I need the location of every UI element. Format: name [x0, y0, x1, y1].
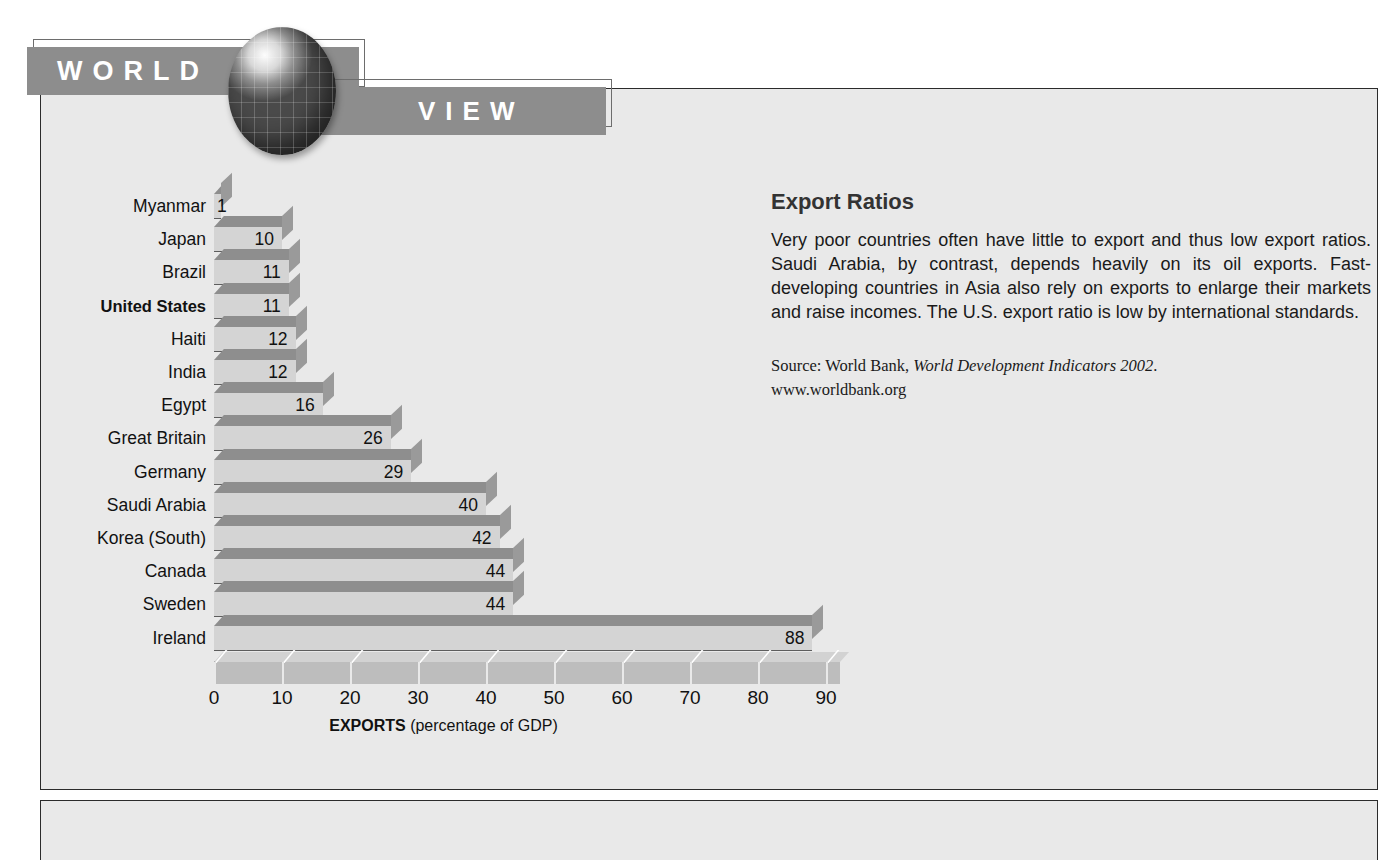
axis-tick-lower	[826, 662, 828, 684]
bar-top-face	[214, 548, 523, 559]
axis-tick-label: 90	[806, 687, 846, 709]
axis-tick-lower	[554, 662, 556, 684]
bar-row: Saudi Arabia40	[41, 493, 741, 517]
axis-tick-label: 30	[398, 687, 438, 709]
x-axis-title-rest: (percentage of GDP)	[406, 717, 558, 734]
bar-row: Great Britain26	[41, 426, 741, 450]
bar-top-face	[214, 449, 421, 460]
bar-top-face	[214, 382, 333, 393]
bar-value-label: 12	[248, 327, 288, 351]
bar-front-face	[214, 626, 812, 651]
bar-row: Sweden44	[41, 592, 741, 616]
article-title: Export Ratios	[771, 189, 1371, 215]
bar-row: Ireland88	[41, 626, 741, 650]
bar-row: Korea (South)42	[41, 526, 741, 550]
axis-tick-lower	[418, 662, 420, 684]
bar-value-label: 40	[438, 493, 478, 517]
bar-row: Brazil11	[41, 260, 741, 284]
view-band: VIEW	[290, 87, 606, 135]
bar-top-face	[214, 216, 292, 227]
axis-tick-label: 40	[466, 687, 506, 709]
bar-category-label: Myanmar	[46, 194, 206, 218]
article-column: Export Ratios Very poor countries often …	[771, 189, 1371, 401]
axis-tick-label: 10	[262, 687, 302, 709]
bar-category-label: Saudi Arabia	[46, 493, 206, 517]
bar-side-face	[812, 604, 823, 638]
bar-category-label: United States	[46, 294, 206, 318]
bar-category-label: Sweden	[46, 592, 206, 616]
axis-tick-label: 60	[602, 687, 642, 709]
bar-category-label: Ireland	[46, 626, 206, 650]
bar-value-label: 88	[764, 626, 804, 650]
article-body: Very poor countries often have little to…	[771, 228, 1371, 324]
globe-icon	[228, 27, 336, 155]
world-view-panel: Myanmar1Japan10Brazil11United States11Ha…	[40, 88, 1378, 790]
bar-value-label: 42	[452, 526, 492, 550]
bar-top-face	[214, 283, 299, 294]
source-url: www.worldbank.org	[771, 380, 906, 399]
bar-value-label: 29	[363, 460, 403, 484]
bar-top-face	[214, 249, 299, 260]
source-publication: World Development Indicators 2002	[913, 356, 1153, 375]
source-suffix: .	[1153, 356, 1157, 375]
axis-top-face	[214, 652, 849, 662]
bar-category-label: Canada	[46, 559, 206, 583]
bar-top-face	[214, 316, 305, 327]
bar-top-face	[214, 515, 509, 526]
bar-category-label: Brazil	[46, 260, 206, 284]
axis-tick-lower	[282, 662, 284, 684]
bar-value-label: 12	[248, 360, 288, 384]
chart-x-axis	[214, 661, 840, 684]
axis-tick-lower	[758, 662, 760, 684]
bar-row: Haiti12	[41, 327, 741, 351]
bar-top-face	[214, 615, 822, 626]
bar-category-label: Haiti	[46, 327, 206, 351]
bar	[214, 626, 812, 650]
bar-top-face	[214, 581, 523, 592]
bar-value-label: 10	[234, 227, 274, 251]
bar-top-face	[214, 415, 401, 426]
bar-value-label: 11	[241, 260, 281, 284]
export-ratios-chart: Myanmar1Japan10Brazil11United States11Ha…	[41, 89, 741, 791]
bar-value-label: 44	[465, 559, 505, 583]
axis-tick-lower	[622, 662, 624, 684]
bar-top-face	[214, 482, 496, 493]
bar-row: Germany29	[41, 460, 741, 484]
bar-category-label: Germany	[46, 460, 206, 484]
axis-tick-label: 0	[194, 687, 234, 709]
axis-tick-label: 80	[738, 687, 778, 709]
bar-category-label: India	[46, 360, 206, 384]
axis-tick-lower	[350, 662, 352, 684]
source-prefix: Source: World Bank,	[771, 356, 913, 375]
axis-tick-lower	[214, 662, 216, 684]
bar-value-label: 44	[465, 592, 505, 616]
bar-row: Canada44	[41, 559, 741, 583]
axis-tick-lower	[486, 662, 488, 684]
x-axis-title-bold: EXPORTS	[329, 717, 405, 734]
world-view-banner: WORLD VIEW	[0, 0, 640, 180]
globe-grid-icon	[228, 27, 336, 155]
source-citation: Source: World Bank, World Development In…	[771, 354, 1371, 401]
bar-category-label: Korea (South)	[46, 526, 206, 550]
bar-row: India12	[41, 360, 741, 384]
next-section-panel	[40, 800, 1378, 860]
bar-row: Japan10	[41, 227, 741, 251]
bar-value-label: 11	[241, 294, 281, 318]
x-axis-title: EXPORTS (percentage of GDP)	[41, 717, 846, 735]
bar-value-label: 16	[275, 393, 315, 417]
bar-value-label: 1	[217, 194, 257, 218]
axis-tick-label: 70	[670, 687, 710, 709]
bar-category-label: Japan	[46, 227, 206, 251]
bar-category-label: Great Britain	[46, 426, 206, 450]
axis-tick-label: 20	[330, 687, 370, 709]
bar-top-face	[214, 349, 305, 360]
axis-tick-lower	[690, 662, 692, 684]
bar-row: Myanmar1	[41, 194, 741, 218]
bar-row: United States11	[41, 294, 741, 318]
bar-value-label: 26	[343, 426, 383, 450]
bar-category-label: Egypt	[46, 393, 206, 417]
axis-tick-label: 50	[534, 687, 574, 709]
